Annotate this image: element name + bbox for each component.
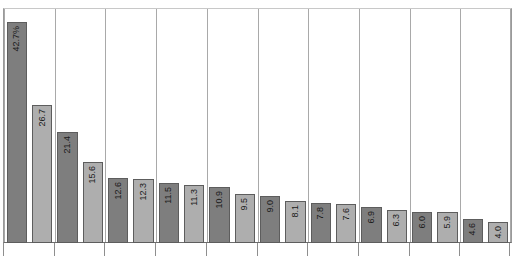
bar: 9.0 bbox=[260, 196, 280, 243]
bar-value-label: 11.5 bbox=[164, 187, 173, 204]
bar: 4.6 bbox=[463, 219, 483, 243]
bar: 6.9 bbox=[361, 207, 381, 243]
bar-value-label: 9.0 bbox=[266, 200, 275, 213]
bar: 9.5 bbox=[235, 194, 255, 243]
bar-value-label: 8.1 bbox=[291, 205, 300, 218]
axis-tick bbox=[54, 243, 55, 256]
bar-value-label: 5.9 bbox=[443, 216, 452, 229]
bar: 11.5 bbox=[159, 183, 179, 243]
axis-tick bbox=[257, 243, 258, 256]
bar-value-label: 42.7% bbox=[12, 26, 21, 52]
bar-value-label: 4.0 bbox=[494, 226, 503, 239]
axis-tick bbox=[459, 243, 460, 256]
bar: 12.6 bbox=[108, 178, 128, 243]
bar: 21.4 bbox=[57, 132, 77, 243]
axis-tick bbox=[3, 243, 4, 256]
bar: 5.9 bbox=[437, 212, 457, 243]
bar-value-label: 9.5 bbox=[240, 198, 249, 211]
x-axis-ticks bbox=[3, 243, 512, 257]
axis-tick bbox=[409, 243, 410, 256]
bar-value-label: 7.8 bbox=[316, 207, 325, 220]
axis-tick bbox=[104, 243, 105, 256]
axis-tick bbox=[358, 243, 359, 256]
bar: 11.3 bbox=[184, 185, 204, 244]
bar: 42.7% bbox=[7, 22, 27, 243]
bar-value-label: 21.4 bbox=[63, 136, 72, 154]
bar-value-label: 11.3 bbox=[190, 189, 199, 206]
bar-value-label: 6.9 bbox=[367, 211, 376, 224]
bar: 7.8 bbox=[311, 203, 331, 243]
bar: 6.3 bbox=[387, 210, 407, 243]
axis-tick bbox=[206, 243, 207, 256]
bar: 12.3 bbox=[133, 179, 153, 243]
bar-value-label: 12.6 bbox=[114, 182, 123, 200]
bar-value-label: 4.6 bbox=[468, 223, 477, 236]
bar-chart: 42.7%26.721.415.612.612.311.511.310.99.5… bbox=[0, 0, 522, 259]
bar: 4.0 bbox=[488, 222, 508, 243]
bar: 7.6 bbox=[336, 204, 356, 243]
bar-series: 42.7%26.721.415.612.612.311.511.310.99.5… bbox=[3, 8, 512, 243]
bar-value-label: 15.6 bbox=[88, 166, 97, 184]
axis-tick bbox=[509, 243, 510, 256]
bar: 15.6 bbox=[83, 162, 103, 243]
bar-value-label: 10.9 bbox=[215, 191, 224, 209]
axis-tick bbox=[155, 243, 156, 256]
bar-value-label: 26.7 bbox=[38, 109, 47, 127]
bar: 8.1 bbox=[285, 201, 305, 243]
bar-value-label: 7.6 bbox=[342, 208, 351, 221]
axis-tick bbox=[307, 243, 308, 256]
bar-value-label: 6.3 bbox=[392, 214, 401, 227]
bar: 10.9 bbox=[209, 187, 229, 243]
bar: 6.0 bbox=[412, 212, 432, 243]
bar-value-label: 12.3 bbox=[139, 183, 148, 201]
bar: 26.7 bbox=[32, 105, 52, 243]
bar-value-label: 6.0 bbox=[418, 216, 427, 229]
